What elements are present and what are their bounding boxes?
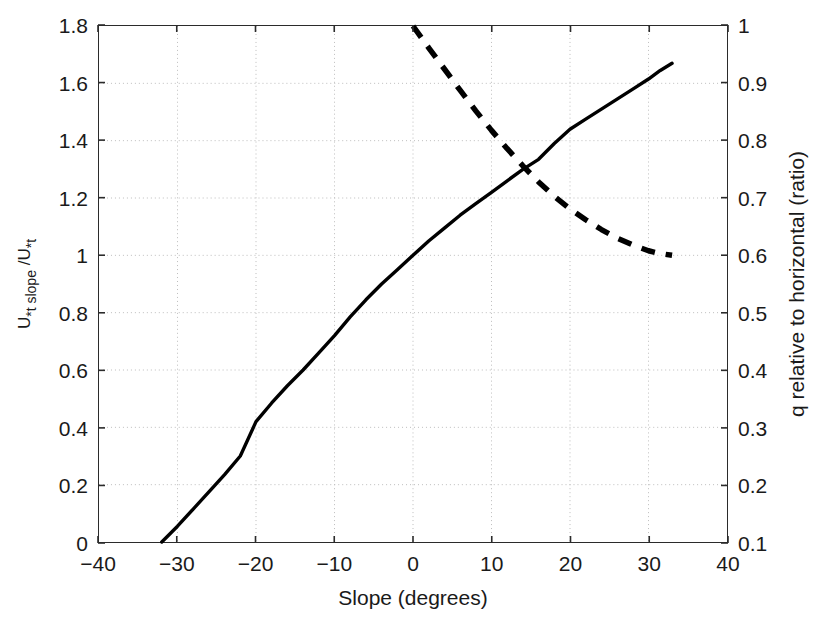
axis-ticks (0, 0, 822, 638)
figure-canvas: Slope (degrees) U*t slope /U*t q relativ… (0, 0, 822, 638)
